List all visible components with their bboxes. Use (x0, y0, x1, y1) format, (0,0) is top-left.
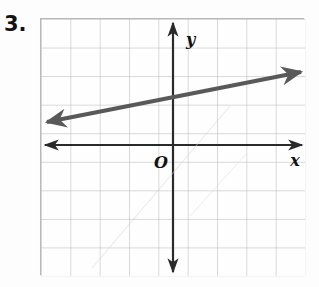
y-axis-label: y (185, 30, 197, 49)
coordinate-graph: O y x (41, 19, 305, 276)
graph-panel: O y x (40, 18, 304, 275)
problem-number: 3. (4, 14, 27, 35)
x-axis-label: x (289, 151, 300, 170)
figure-root: 3. (0, 0, 319, 287)
origin-label: O (154, 153, 168, 172)
